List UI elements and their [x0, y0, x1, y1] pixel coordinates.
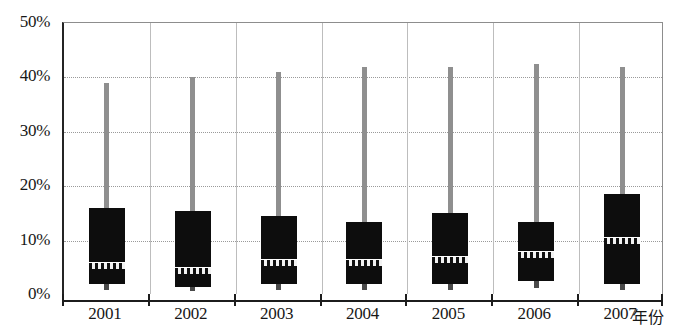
- whisker-upper: [276, 72, 281, 216]
- y-axis-labels: 50%40%30%20%10%0%: [0, 0, 56, 328]
- box-plot-2007: [579, 23, 665, 294]
- box-plot-chart: 50%40%30%20%10%0% 2001200220032004200520…: [0, 0, 677, 328]
- x-axis-label-2005: 2005: [432, 304, 465, 324]
- whisker-lower-tick: [448, 284, 453, 289]
- plot-area: [62, 22, 663, 294]
- box-lower-quartile: [261, 266, 297, 284]
- y-axis-tick-50: 50%: [20, 12, 50, 32]
- box-upper-quartile: [346, 222, 382, 259]
- box-upper-quartile: [432, 213, 468, 256]
- whisker-upper: [104, 83, 109, 208]
- y-axis-tick-0: 0%: [28, 284, 50, 304]
- box-upper-quartile: [604, 194, 640, 237]
- x-axis-labels: 2001200220032004200520062007: [62, 304, 663, 328]
- whisker-lower-tick: [276, 284, 281, 289]
- box-upper-quartile: [518, 222, 554, 251]
- whisker-lower-tick: [362, 284, 367, 289]
- x-axis-label-2001: 2001: [88, 304, 121, 324]
- box-plot-2006: [493, 23, 579, 294]
- whisker-upper: [620, 67, 625, 195]
- x-axis-title: 年份: [632, 304, 664, 328]
- box-upper-quartile: [175, 211, 211, 267]
- whisker-upper: [362, 67, 367, 222]
- x-axis-line: [62, 300, 663, 302]
- box-lower-quartile: [346, 266, 382, 284]
- box-lower-quartile: [518, 258, 554, 282]
- whisker-lower-tick: [534, 281, 539, 288]
- box-upper-quartile: [261, 216, 297, 259]
- box-upper-quartile: [89, 208, 125, 262]
- x-axis-label-2004: 2004: [346, 304, 379, 324]
- box-lower-quartile: [432, 263, 468, 284]
- whisker-upper: [534, 64, 539, 222]
- box-plot-2002: [150, 23, 236, 294]
- whisker-lower-tick: [104, 284, 109, 289]
- box-lower-quartile: [89, 269, 125, 285]
- whisker-upper: [190, 77, 195, 210]
- whisker-lower-tick: [620, 284, 625, 289]
- box-plot-2001: [64, 23, 150, 294]
- y-axis-tick-40: 40%: [20, 66, 50, 86]
- box-plot-2003: [236, 23, 322, 294]
- box-lower-quartile: [175, 274, 211, 287]
- x-axis-label-2002: 2002: [174, 304, 207, 324]
- box-plot-2005: [407, 23, 493, 294]
- y-axis-tick-30: 30%: [20, 121, 50, 141]
- whisker-upper: [448, 67, 453, 214]
- x-axis-label-2006: 2006: [518, 304, 551, 324]
- whisker-lower-tick: [190, 287, 195, 291]
- box-lower-quartile: [604, 244, 640, 284]
- box-plot-2004: [322, 23, 408, 294]
- y-axis-tick-10: 10%: [20, 230, 50, 250]
- y-axis-tick-20: 20%: [20, 175, 50, 195]
- x-axis-label-2003: 2003: [260, 304, 293, 324]
